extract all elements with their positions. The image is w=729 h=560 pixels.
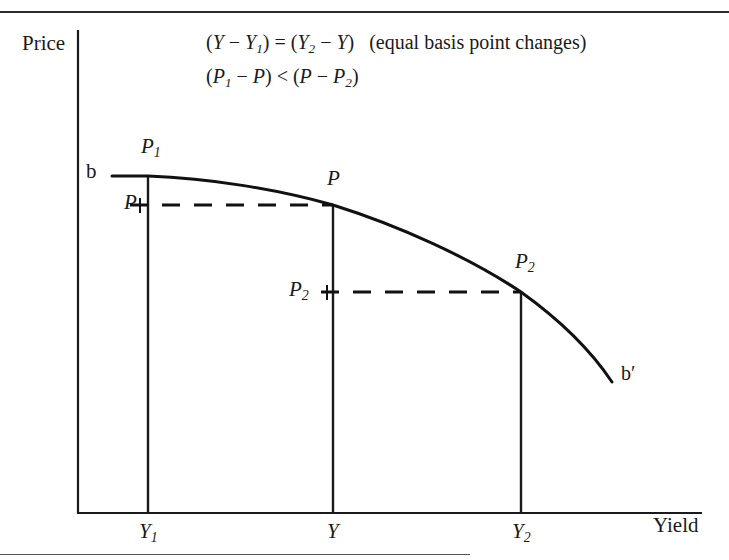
- figure-drawing-canvas: [0, 0, 729, 560]
- price-yield-figure: Price Yield (Y − Y1) = (Y2 − Y) (equal b…: [0, 0, 729, 560]
- price-yield-curve: [112, 176, 612, 382]
